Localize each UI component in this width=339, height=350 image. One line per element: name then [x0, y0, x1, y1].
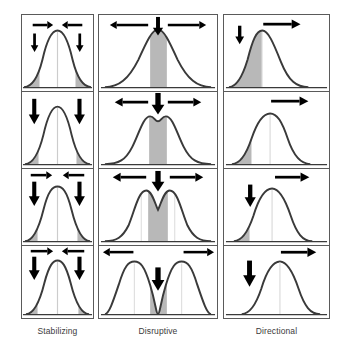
arrow-down-left [245, 185, 256, 207]
arrow-down-right-large [74, 99, 85, 124]
arrow-down-left-large [29, 182, 40, 206]
shade-left-tail-small [234, 185, 250, 243]
distribution-curve [234, 188, 313, 241]
column-directional [223, 14, 330, 318]
panel-stabilizing-row3 [21, 168, 94, 246]
arrow-left-long [113, 173, 146, 182]
column-label-disruptive: Disruptive [98, 326, 218, 336]
panel-disruptive-row4 [98, 245, 218, 319]
arrow-left-long [103, 248, 133, 256]
panel-directional-row3 [223, 168, 330, 246]
shade-center [150, 27, 167, 89]
arrow-right-toward-center [31, 171, 52, 179]
panel-stabilizing-row2 [21, 91, 94, 169]
panel-disruptive-row3 [98, 168, 218, 246]
panel-stabilizing-row1 [21, 14, 94, 92]
panel-directional-row4 [223, 245, 330, 319]
panel-directional-row1 [223, 14, 330, 92]
arrow-down-center-large [152, 171, 165, 191]
arrow-right-toward-center [33, 21, 53, 29]
shade-left-tail [24, 29, 40, 89]
arrow-right-long [271, 96, 308, 105]
arrow-right-long [263, 19, 300, 28]
shade-left-of-mean [229, 27, 262, 89]
arrow-down-right-large [74, 182, 85, 206]
arrow-left-long [110, 21, 148, 29]
selection-modes-figure: Stabilizing Disruptive Directional [0, 0, 339, 350]
arrow-right-long [168, 98, 201, 107]
arrow-down-left [31, 34, 39, 53]
panel-disruptive-row2 [98, 91, 218, 169]
panel-disruptive-row1 [98, 14, 218, 92]
shade-right-tail [75, 29, 91, 89]
column-label-directional: Directional [223, 326, 330, 336]
arrow-down-left-large [29, 99, 40, 124]
arrow-right-toward-center [31, 247, 53, 255]
arrow-down-right-large [74, 257, 85, 280]
arrow-right-long [184, 248, 214, 256]
arrow-right-long [281, 248, 316, 257]
distribution-curve [242, 262, 321, 315]
shade-center [149, 111, 167, 166]
arrow-down-center-large [152, 93, 165, 114]
distribution-curve [232, 113, 311, 164]
arrow-right-long [170, 173, 203, 182]
arrow-left-toward-center [62, 247, 84, 255]
arrow-down-center-large [152, 267, 165, 290]
arrow-left-toward-center [63, 171, 84, 179]
arrow-right-long [275, 173, 309, 182]
panel-directional-row2 [223, 91, 330, 169]
arrow-down-left [235, 26, 244, 45]
panel-stabilizing-row4 [21, 245, 94, 319]
arrow-down-left-large [29, 257, 40, 280]
arrow-left-toward-center [62, 21, 82, 29]
column-disruptive [98, 14, 218, 318]
column-stabilizing [21, 14, 94, 318]
arrow-right-long [168, 21, 206, 29]
arrow-down-right [76, 34, 84, 53]
arrow-left-long [115, 98, 148, 107]
arrow-down-left-large [243, 261, 256, 287]
